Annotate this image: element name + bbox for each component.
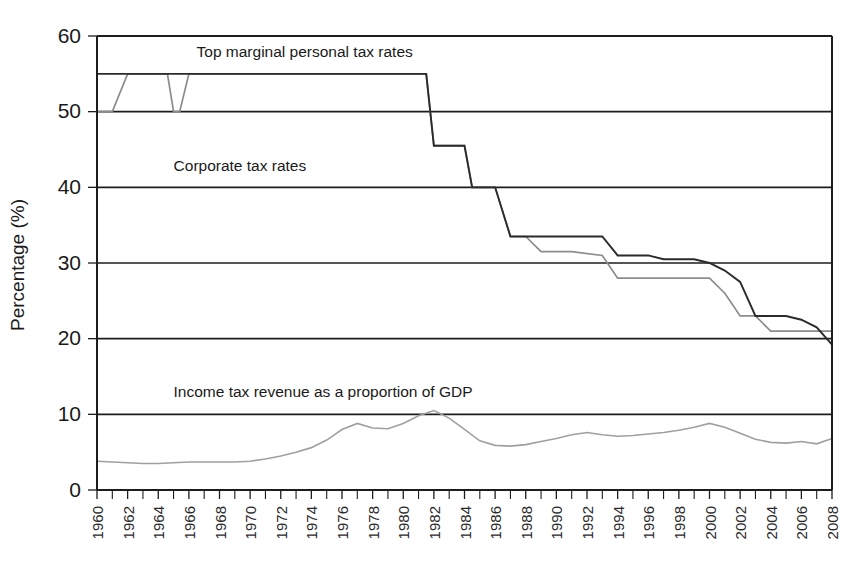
x-tick-label-1980: 1980 bbox=[395, 506, 412, 539]
series-annotations: Top marginal personal tax ratesCorporate… bbox=[174, 43, 473, 400]
x-tick-label-1968: 1968 bbox=[212, 506, 229, 539]
x-tick-label-1986: 1986 bbox=[487, 506, 504, 539]
series-line-1 bbox=[97, 74, 832, 345]
x-tick-label-2004: 2004 bbox=[763, 506, 780, 539]
series-line-2 bbox=[97, 411, 832, 464]
x-tick-label-1966: 1966 bbox=[181, 506, 198, 539]
x-tick-label-1990: 1990 bbox=[548, 506, 565, 539]
x-tick-label-2008: 2008 bbox=[824, 506, 841, 539]
x-tick-label-1964: 1964 bbox=[150, 506, 167, 539]
y-tick-label-30: 30 bbox=[58, 251, 81, 274]
chart-figure: 0102030405060 19601962196419661968197019… bbox=[0, 0, 868, 570]
x-tick-label-1974: 1974 bbox=[303, 506, 320, 539]
y-tick-label-0: 0 bbox=[69, 478, 81, 501]
x-tick-label-1962: 1962 bbox=[120, 506, 137, 539]
x-tick-label-1996: 1996 bbox=[640, 506, 657, 539]
x-tick-label-1988: 1988 bbox=[518, 506, 535, 539]
annotation-2: Income tax revenue as a proportion of GD… bbox=[174, 383, 473, 400]
tax-rates-line-chart: 0102030405060 19601962196419661968197019… bbox=[0, 0, 868, 570]
x-tick-label-1970: 1970 bbox=[242, 506, 259, 539]
annotation-0: Top marginal personal tax rates bbox=[197, 43, 414, 60]
annotation-1: Corporate tax rates bbox=[174, 157, 307, 174]
y-tick-label-40: 40 bbox=[58, 175, 81, 198]
x-tick-label-1976: 1976 bbox=[334, 506, 351, 539]
x-tick-label-1960: 1960 bbox=[89, 506, 106, 539]
x-tick-label-1992: 1992 bbox=[579, 506, 596, 539]
x-tick-label-1984: 1984 bbox=[457, 506, 474, 539]
data-series bbox=[97, 74, 832, 464]
x-axis-ticks: 1960196219641966196819701972197419761978… bbox=[89, 490, 841, 539]
y-tick-label-50: 50 bbox=[58, 99, 81, 122]
x-tick-label-2002: 2002 bbox=[732, 506, 749, 539]
x-tick-label-1994: 1994 bbox=[610, 506, 627, 539]
gridlines bbox=[97, 36, 832, 414]
y-axis-ticks: 0102030405060 bbox=[58, 24, 97, 501]
y-tick-label-20: 20 bbox=[58, 326, 81, 349]
x-tick-label-2006: 2006 bbox=[793, 506, 810, 539]
y-axis-title: Percentage (%) bbox=[7, 199, 28, 331]
x-tick-label-1998: 1998 bbox=[671, 506, 688, 539]
x-tick-label-2000: 2000 bbox=[702, 506, 719, 539]
y-tick-label-60: 60 bbox=[58, 24, 81, 47]
x-tick-label-1972: 1972 bbox=[273, 506, 290, 539]
x-tick-label-1978: 1978 bbox=[365, 506, 382, 539]
y-tick-label-10: 10 bbox=[58, 402, 81, 425]
x-tick-label-1982: 1982 bbox=[426, 506, 443, 539]
